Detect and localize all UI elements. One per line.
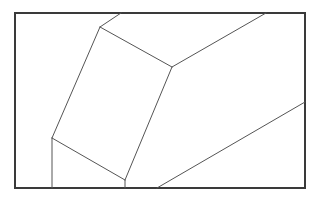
edge-c-d (52, 138, 125, 180)
edge-long-diagonal (157, 102, 305, 188)
edge-a-b (100, 27, 172, 67)
edge-b-to-top (172, 13, 266, 67)
diagram-canvas (0, 0, 322, 198)
prism-line-drawing (0, 0, 322, 198)
edge-a-to-top (100, 13, 121, 27)
frame-border (15, 13, 305, 188)
edge-a-c (52, 27, 100, 138)
solid-edges (52, 13, 305, 188)
edge-b-d (125, 67, 172, 180)
